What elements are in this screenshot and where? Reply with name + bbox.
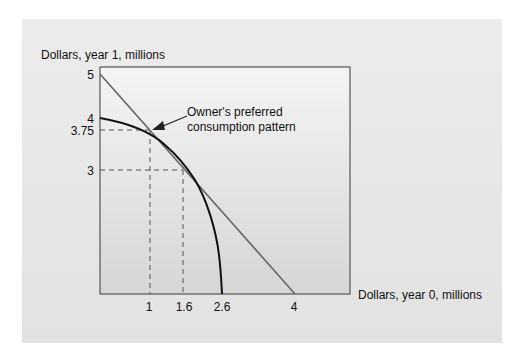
y-axis-label: Dollars, year 1, millions xyxy=(41,48,165,62)
x-tick-1: 1 xyxy=(146,300,153,314)
annotation-line-1: Owner's preferred xyxy=(187,105,283,119)
annotation-line-2: consumption pattern xyxy=(187,120,296,134)
plot-area xyxy=(100,67,350,294)
x-tick-2-6: 2.6 xyxy=(214,300,231,314)
y-tick-3: 3 xyxy=(87,164,94,178)
y-tick-3-75: 3.75 xyxy=(71,124,95,138)
chart: Dollars, year 1, millions Dollars, year … xyxy=(0,0,522,355)
x-axis-label: Dollars, year 0, millions xyxy=(358,288,482,302)
x-tick-4: 4 xyxy=(291,300,298,314)
y-tick-5: 5 xyxy=(87,68,94,82)
x-tick-1-6: 1.6 xyxy=(176,300,193,314)
